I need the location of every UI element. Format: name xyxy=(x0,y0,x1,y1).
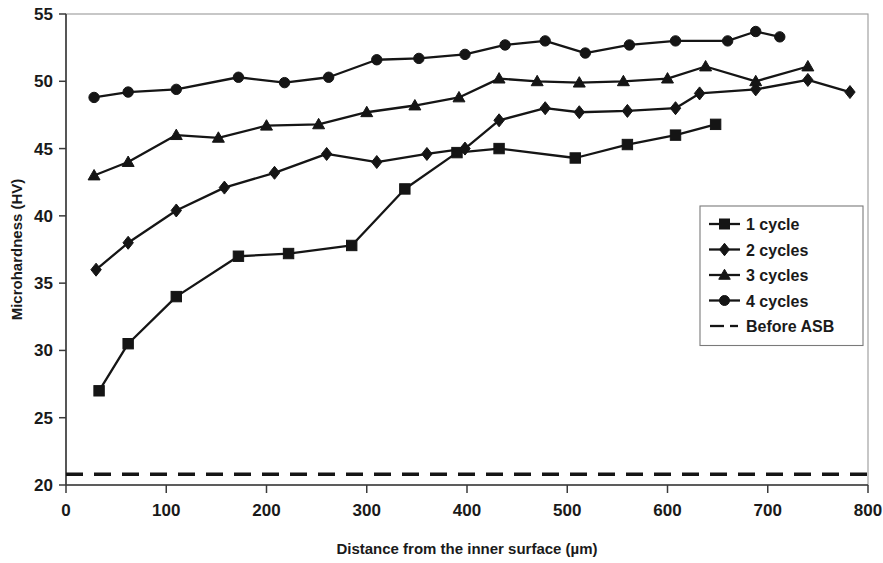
data-point-circle xyxy=(414,53,424,63)
data-point-diamond xyxy=(422,147,432,160)
data-point-diamond xyxy=(540,102,550,115)
data-point-diamond xyxy=(845,86,855,99)
data-point-square xyxy=(570,153,580,163)
data-point-diamond xyxy=(574,106,584,119)
legend-label: 4 cycles xyxy=(746,293,808,310)
data-point-square xyxy=(670,130,680,140)
data-point-circle xyxy=(323,72,333,82)
x-tick-label: 800 xyxy=(854,501,882,520)
data-point-diamond xyxy=(622,104,632,117)
series-3-cycles xyxy=(88,61,814,180)
data-point-diamond xyxy=(219,181,229,194)
x-tick-label: 500 xyxy=(553,501,581,520)
legend-label: 3 cycles xyxy=(746,267,808,284)
data-point-circle xyxy=(540,36,550,46)
microhardness-chart: 2025303540455055 01002003004005006007008… xyxy=(0,0,883,563)
x-axis-title: Distance from the inner surface (µm) xyxy=(336,540,597,557)
legend-label: 1 cycle xyxy=(746,216,799,233)
data-point-square xyxy=(171,291,181,301)
y-tick-label: 30 xyxy=(34,341,53,360)
legend-label: Before ASB xyxy=(746,318,834,335)
x-tick-label: 200 xyxy=(252,501,280,520)
series-4-cycles xyxy=(89,26,785,102)
data-point-triangle xyxy=(122,156,134,166)
data-point-circle xyxy=(580,48,590,58)
data-point-square xyxy=(94,386,104,396)
data-point-diamond xyxy=(803,73,813,86)
x-tick-label: 400 xyxy=(453,501,481,520)
x-tick-label: 0 xyxy=(61,501,70,520)
data-point-circle xyxy=(89,92,99,102)
data-point-square xyxy=(710,119,720,129)
x-tick-label: 300 xyxy=(353,501,381,520)
data-point-diamond xyxy=(494,114,504,127)
y-tick-label: 20 xyxy=(34,476,53,495)
data-point-circle xyxy=(720,296,730,306)
series-1-cycle xyxy=(94,119,721,396)
y-tick-label: 35 xyxy=(34,274,53,293)
data-point-square xyxy=(123,339,133,349)
data-point-diamond xyxy=(269,166,279,179)
data-point-square xyxy=(283,248,293,258)
data-point-square xyxy=(400,184,410,194)
y-tick-label: 25 xyxy=(34,409,53,428)
series-path xyxy=(94,66,808,175)
data-point-diamond xyxy=(694,87,704,100)
data-point-square xyxy=(720,219,730,229)
data-point-diamond xyxy=(670,102,680,115)
data-point-circle xyxy=(233,72,243,82)
data-point-diamond xyxy=(171,204,181,217)
x-axis: 0100200300400500600700800 xyxy=(61,485,882,520)
data-point-triangle xyxy=(700,61,712,71)
data-point-diamond xyxy=(372,156,382,169)
chart-canvas: 2025303540455055 01002003004005006007008… xyxy=(0,0,883,563)
data-point-circle xyxy=(460,49,470,59)
y-tick-label: 50 xyxy=(34,72,53,91)
data-point-circle xyxy=(670,36,680,46)
y-tick-label: 55 xyxy=(34,5,53,24)
x-tick-label: 700 xyxy=(754,501,782,520)
chart-legend: 1 cycle2 cycles3 cycles4 cyclesBefore AS… xyxy=(700,206,863,346)
data-point-circle xyxy=(279,77,289,87)
data-point-diamond xyxy=(321,147,331,160)
data-point-square xyxy=(494,143,504,153)
data-point-circle xyxy=(500,40,510,50)
data-point-circle xyxy=(123,87,133,97)
data-point-square xyxy=(622,139,632,149)
y-axis-title: Microhardness (HV) xyxy=(8,179,25,321)
data-point-circle xyxy=(624,40,634,50)
data-point-circle xyxy=(775,32,785,42)
data-point-circle xyxy=(372,55,382,65)
data-point-circle xyxy=(171,84,181,94)
y-tick-label: 45 xyxy=(34,140,53,159)
x-tick-label: 600 xyxy=(653,501,681,520)
data-point-square xyxy=(233,251,243,261)
y-tick-label: 40 xyxy=(34,207,53,226)
data-point-triangle xyxy=(802,61,814,71)
x-tick-label: 100 xyxy=(152,501,180,520)
data-point-circle xyxy=(751,26,761,36)
series-path xyxy=(99,124,716,390)
legend-label: 2 cycles xyxy=(746,242,808,259)
data-point-circle xyxy=(722,36,732,46)
data-point-square xyxy=(347,240,357,250)
y-axis: 2025303540455055 xyxy=(34,5,66,495)
